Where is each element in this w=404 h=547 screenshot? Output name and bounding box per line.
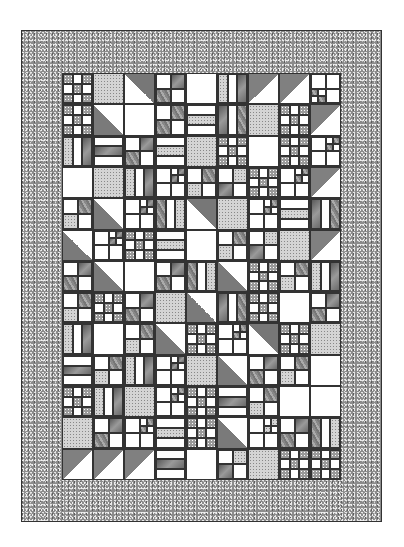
quilt-block-hstTR: [62, 230, 93, 261]
patch: [280, 469, 290, 479]
patch: [94, 156, 123, 166]
patch: [311, 137, 326, 152]
patch: [156, 74, 171, 89]
patch: [82, 387, 92, 397]
patch: [125, 137, 140, 152]
patch: [249, 245, 264, 260]
quilt-block-hstBL: [310, 167, 341, 198]
patch: [280, 125, 290, 135]
quilt-block-rh: [155, 136, 186, 167]
patch: [140, 151, 155, 166]
patch: [140, 324, 155, 339]
quilt-border-bottom: [62, 478, 341, 521]
patch: [280, 276, 295, 291]
patch: [73, 407, 83, 417]
patch: [299, 156, 309, 166]
patch: [73, 105, 83, 115]
patch: [63, 276, 78, 291]
patch: [299, 105, 309, 115]
patch: [109, 231, 116, 238]
patch: [63, 125, 73, 135]
quilt-block-w: [62, 167, 93, 198]
patch: [63, 262, 78, 277]
patch: [156, 438, 185, 448]
patch: [290, 450, 300, 460]
patch: [290, 459, 300, 469]
patch: [218, 397, 247, 407]
patch: [156, 459, 185, 469]
patch: [187, 105, 216, 115]
patch: [333, 144, 340, 151]
patch: [109, 238, 116, 245]
patch: [280, 356, 295, 371]
patch: [171, 370, 186, 385]
patch: [237, 137, 247, 147]
patch: [321, 262, 331, 291]
quilt-block-np: [248, 261, 279, 292]
quilt-block-w: [186, 449, 217, 480]
patch: [330, 418, 340, 447]
patch: [240, 324, 247, 331]
patch: [144, 240, 154, 250]
patch: [280, 370, 295, 385]
quilt-block-hstTR: [155, 323, 186, 354]
patch: [78, 308, 93, 323]
patch: [249, 231, 264, 246]
patch: [73, 387, 83, 397]
patch: [228, 105, 238, 134]
patch: [125, 418, 140, 433]
quilt-block-rv: [217, 292, 248, 323]
patch: [259, 187, 269, 197]
patch: [295, 262, 310, 277]
patch: [326, 308, 341, 323]
patch: [295, 370, 310, 385]
quilt-block-hstTR: [93, 104, 124, 135]
quilt-block-qpS: [155, 355, 186, 386]
patch: [125, 339, 140, 354]
quilt-block-qp: [217, 449, 248, 480]
patch: [125, 293, 140, 308]
patch: [249, 433, 264, 448]
patch: [321, 469, 331, 479]
patch: [206, 344, 216, 354]
patch: [228, 137, 238, 147]
quilt-block-qpS: [124, 417, 155, 448]
patch: [147, 199, 154, 206]
patch: [259, 313, 269, 323]
patch: [73, 324, 83, 353]
patch: [63, 387, 73, 397]
patch: [268, 293, 278, 303]
patch: [63, 407, 73, 417]
patch: [197, 407, 207, 417]
patch: [249, 402, 264, 417]
patch: [94, 137, 123, 147]
quilt-block-qpS: [310, 136, 341, 167]
patch: [233, 245, 248, 260]
patch: [290, 125, 300, 135]
patch: [125, 250, 135, 260]
patch: [125, 324, 140, 339]
patch: [218, 407, 247, 417]
patch: [63, 137, 73, 166]
patch: [249, 370, 264, 385]
patch: [156, 402, 171, 417]
quilt: [21, 30, 382, 522]
patch: [249, 178, 259, 188]
patch: [311, 262, 321, 291]
quilt-block-hstTL: [248, 323, 279, 354]
quilt-block-qp: [62, 292, 93, 323]
patch: [326, 144, 333, 151]
quilt-block-qpS: [124, 198, 155, 229]
patch: [299, 146, 309, 156]
patch: [94, 146, 123, 156]
patch: [259, 281, 269, 291]
patch: [206, 334, 216, 344]
quilt-block-qp: [248, 230, 279, 261]
quilt-block-w: [124, 104, 155, 135]
patch: [187, 387, 197, 397]
patch: [218, 137, 228, 147]
patch: [73, 125, 83, 135]
quilt-block-np: [62, 73, 93, 104]
patch: [187, 428, 197, 438]
quilt-block-np: [186, 386, 217, 417]
